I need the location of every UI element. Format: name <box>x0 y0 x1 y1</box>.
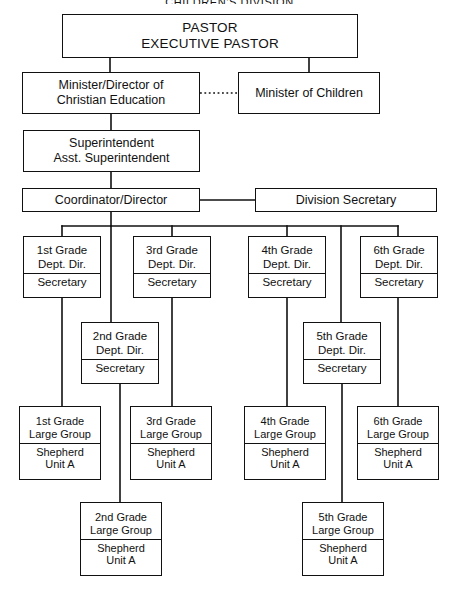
org-node-sub: ShepherdUnit A <box>245 443 325 474</box>
org-node-head: 3rd GradeLarge Group <box>131 413 211 443</box>
org-node-text-line: Secretary <box>252 276 322 290</box>
org-node-grade-2-dept-director[interactable]: 2nd GradeDept. Dir.Secretary <box>81 322 159 384</box>
page-title: CHILDREN'S DIVISION <box>0 0 459 4</box>
org-node-sub: ShepherdUnit A <box>358 443 438 474</box>
org-node-text-line: Large Group <box>23 428 97 441</box>
org-node-text-line: 4th Grade <box>252 244 322 258</box>
org-node-text-line: Dept. Dir. <box>307 344 377 358</box>
org-node-head: 3rd GradeDept. Dir. <box>134 242 210 273</box>
org-node-text-line: 3rd Grade <box>134 415 208 428</box>
org-node-text-line: 5th Grade <box>307 330 377 344</box>
org-chart: CHILDREN'S DIVISION PASTOREXECUTIVE PAST… <box>0 0 459 600</box>
org-node-pastor[interactable]: PASTOREXECUTIVE PASTOR <box>62 14 358 58</box>
org-node-sub: Secretary <box>134 273 210 292</box>
org-node-text-line: Secretary <box>137 276 207 290</box>
org-node-head: 5th GradeLarge Group <box>303 509 383 539</box>
org-node-minister-of-children[interactable]: Minister of Children <box>238 72 380 114</box>
org-node-text-line: 5th Grade <box>306 511 380 524</box>
solid-connectors <box>62 58 398 502</box>
org-node-text-line: Unit A <box>361 458 435 471</box>
org-node-text-line: 1st Grade <box>27 244 97 258</box>
org-node-head: 2nd GradeDept. Dir. <box>82 328 158 359</box>
org-node-head: 5th GradeDept. Dir. <box>304 328 380 359</box>
org-node-text-line: Unit A <box>134 458 208 471</box>
org-node-sub: ShepherdUnit A <box>303 539 383 570</box>
org-node-grade-4-large-group[interactable]: 4th GradeLarge GroupShepherdUnit A <box>244 406 326 480</box>
org-node-sub: Secretary <box>24 273 100 292</box>
org-node-text-line: 6th Grade <box>361 415 435 428</box>
org-node-sub: Secretary <box>361 273 437 292</box>
org-node-coordinator-director[interactable]: Coordinator/Director <box>22 188 200 212</box>
org-node-text-line: Secretary <box>307 362 377 376</box>
org-node-body: Coordinator/Director <box>23 191 199 210</box>
org-node-grade-4-dept-director[interactable]: 4th GradeDept. Dir.Secretary <box>248 236 326 298</box>
org-node-text-line: Dept. Dir. <box>27 258 97 272</box>
org-node-text-line: Dept. Dir. <box>364 258 434 272</box>
org-node-text-line: Division Secretary <box>259 193 433 208</box>
org-node-text-line: Shepherd <box>248 446 322 459</box>
org-node-text-line: Dept. Dir. <box>252 258 322 272</box>
org-node-text-line: PASTOR <box>66 20 354 36</box>
org-node-body: PASTOREXECUTIVE PASTOR <box>63 18 357 54</box>
org-node-grade-1-dept-director[interactable]: 1st GradeDept. Dir.Secretary <box>23 236 101 298</box>
org-node-body: Division Secretary <box>256 191 436 210</box>
org-node-superintendent[interactable]: SuperintendentAsst. Superintendent <box>23 130 200 172</box>
org-node-text-line: Secretary <box>364 276 434 290</box>
org-node-grade-6-dept-director[interactable]: 6th GradeDept. Dir.Secretary <box>360 236 438 298</box>
org-node-sub: ShepherdUnit A <box>81 539 161 570</box>
org-node-grade-5-dept-director[interactable]: 5th GradeDept. Dir.Secretary <box>303 322 381 384</box>
org-node-text-line: Shepherd <box>361 446 435 459</box>
org-node-grade-2-large-group[interactable]: 2nd GradeLarge GroupShepherdUnit A <box>80 502 162 576</box>
org-node-text-line: 2nd Grade <box>85 330 155 344</box>
org-node-text-line: Dept. Dir. <box>137 258 207 272</box>
org-node-head: 1st GradeDept. Dir. <box>24 242 100 273</box>
org-node-sub: ShepherdUnit A <box>20 443 100 474</box>
org-node-text-line: Unit A <box>248 458 322 471</box>
org-node-text-line: EXECUTIVE PASTOR <box>66 36 354 52</box>
org-node-text-line: Large Group <box>248 428 322 441</box>
org-node-head: 1st GradeLarge Group <box>20 413 100 443</box>
org-node-grade-5-large-group[interactable]: 5th GradeLarge GroupShepherdUnit A <box>302 502 384 576</box>
org-node-text-line: Large Group <box>84 524 158 537</box>
org-node-text-line: 6th Grade <box>364 244 434 258</box>
org-node-sub: Secretary <box>82 359 158 378</box>
org-node-head: 4th GradeDept. Dir. <box>249 242 325 273</box>
org-node-text-line: Large Group <box>361 428 435 441</box>
org-node-text-line: Dept. Dir. <box>85 344 155 358</box>
org-node-sub: ShepherdUnit A <box>131 443 211 474</box>
org-node-text-line: Unit A <box>23 458 97 471</box>
org-node-text-line: 3rd Grade <box>137 244 207 258</box>
org-node-text-line: Shepherd <box>84 542 158 555</box>
org-node-minister-of-christian-education[interactable]: Minister/Director ofChristian Education <box>22 72 200 114</box>
org-node-body: SuperintendentAsst. Superintendent <box>24 134 199 168</box>
org-node-text-line: Coordinator/Director <box>26 193 196 208</box>
org-node-text-line: Shepherd <box>23 446 97 459</box>
org-node-body: Minister of Children <box>239 84 379 103</box>
org-node-text-line: Superintendent <box>27 136 196 151</box>
org-node-text-line: 4th Grade <box>248 415 322 428</box>
org-node-text-line: Unit A <box>306 554 380 567</box>
org-node-head: 2nd GradeLarge Group <box>81 509 161 539</box>
org-node-text-line: Minister of Children <box>242 86 376 101</box>
org-node-text-line: Christian Education <box>26 93 196 108</box>
org-node-grade-6-large-group[interactable]: 6th GradeLarge GroupShepherdUnit A <box>357 406 439 480</box>
org-node-text-line: 2nd Grade <box>84 511 158 524</box>
org-node-grade-1-large-group[interactable]: 1st GradeLarge GroupShepherdUnit A <box>19 406 101 480</box>
org-node-text-line: Large Group <box>306 524 380 537</box>
org-node-head: 6th GradeLarge Group <box>358 413 438 443</box>
org-node-division-secretary[interactable]: Division Secretary <box>255 188 437 212</box>
org-node-sub: Secretary <box>249 273 325 292</box>
org-node-text-line: Shepherd <box>134 446 208 459</box>
org-node-head: 6th GradeDept. Dir. <box>361 242 437 273</box>
org-node-body: Minister/Director ofChristian Education <box>23 76 199 110</box>
org-node-grade-3-dept-director[interactable]: 3rd GradeDept. Dir.Secretary <box>133 236 211 298</box>
org-node-text-line: Shepherd <box>306 542 380 555</box>
org-node-text-line: Minister/Director of <box>26 78 196 93</box>
org-node-text-line: 1st Grade <box>23 415 97 428</box>
org-node-text-line: Large Group <box>134 428 208 441</box>
org-node-text-line: Secretary <box>27 276 97 290</box>
org-node-text-line: Unit A <box>84 554 158 567</box>
org-node-grade-3-large-group[interactable]: 3rd GradeLarge GroupShepherdUnit A <box>130 406 212 480</box>
org-node-sub: Secretary <box>304 359 380 378</box>
org-node-head: 4th GradeLarge Group <box>245 413 325 443</box>
